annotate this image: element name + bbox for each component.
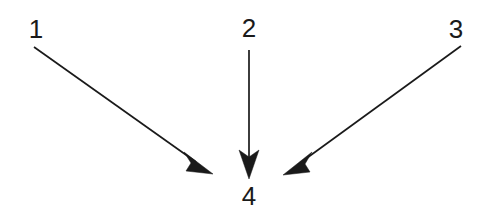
arrow-from-2 xyxy=(239,50,259,179)
callout-label-1: 1 xyxy=(29,14,43,44)
converging-arrows-diagram: 1 2 3 4 xyxy=(0,0,490,211)
callout-label-3: 3 xyxy=(449,14,463,44)
arrow-from-3 xyxy=(283,46,461,175)
callout-label-2: 2 xyxy=(242,13,256,43)
arrow-from-3-shaft xyxy=(300,46,461,163)
arrow-from-3-head xyxy=(283,152,312,175)
arrow-from-1-head xyxy=(184,152,213,174)
callout-label-4: 4 xyxy=(242,181,256,211)
diagram-canvas: 1 2 3 4 xyxy=(0,0,490,211)
arrow-from-1-shaft xyxy=(34,47,196,162)
arrow-from-1 xyxy=(34,47,213,174)
